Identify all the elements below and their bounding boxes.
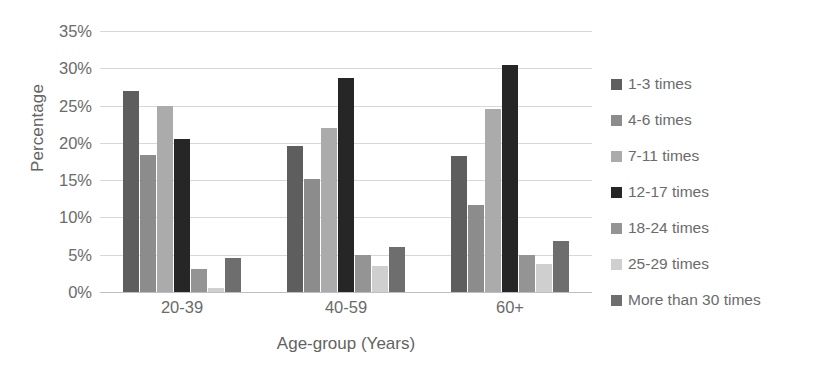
- legend-swatch-icon: [611, 115, 622, 126]
- legend-label: 12-17 times: [628, 184, 709, 200]
- bar: [304, 179, 320, 292]
- legend-label: More than 30 times: [628, 292, 761, 308]
- bar-chart: Percentage 35%30%25%20%15%10%5%0% 20-394…: [0, 0, 820, 392]
- bar: [287, 146, 303, 292]
- bar: [225, 258, 241, 292]
- legend-label: 7-11 times: [628, 148, 699, 164]
- legend-swatch-icon: [611, 223, 622, 234]
- bar-group: [100, 31, 264, 292]
- y-axis-tick-labels: 35%30%25%20%15%10%5%0%: [30, 31, 92, 292]
- legend-item: 1-3 times: [611, 66, 816, 102]
- legend-swatch-icon: [611, 151, 622, 162]
- bar-group: [428, 31, 592, 292]
- bar-groups: [100, 31, 592, 292]
- bar: [157, 106, 173, 292]
- bar: [123, 91, 139, 292]
- bar-group: [264, 31, 428, 292]
- bar: [208, 288, 224, 292]
- axis-baseline: [100, 292, 592, 293]
- legend-item: 25-29 times: [611, 246, 816, 282]
- bar: [536, 264, 552, 292]
- bar: [519, 255, 535, 292]
- x-axis-title: Age-group (Years): [100, 334, 592, 354]
- y-axis-tick-label: 0%: [30, 283, 92, 302]
- bar: [140, 155, 156, 292]
- legend-swatch-icon: [611, 187, 622, 198]
- y-axis-tick-label: 25%: [30, 96, 92, 115]
- plot-area: [100, 31, 592, 292]
- legend: 1-3 times4-6 times7-11 times12-17 times1…: [611, 66, 816, 318]
- y-axis-tick-label: 20%: [30, 133, 92, 152]
- legend-item: 18-24 times: [611, 210, 816, 246]
- bar: [468, 205, 484, 292]
- x-axis-tick-label: 60+: [428, 298, 592, 317]
- x-axis-tick-labels: 20-3940-5960+: [100, 298, 592, 317]
- bar: [372, 266, 388, 292]
- bar: [485, 109, 501, 292]
- legend-label: 1-3 times: [628, 76, 692, 92]
- bar: [451, 156, 467, 292]
- legend-item: More than 30 times: [611, 282, 816, 318]
- y-axis-tick-label: 35%: [30, 22, 92, 41]
- x-axis-tick-label: 20-39: [100, 298, 264, 317]
- legend-label: 18-24 times: [628, 220, 709, 236]
- y-axis-tick-label: 15%: [30, 171, 92, 190]
- legend-item: 4-6 times: [611, 102, 816, 138]
- bar: [321, 128, 337, 292]
- y-axis-tick-label: 10%: [30, 208, 92, 227]
- legend-item: 12-17 times: [611, 174, 816, 210]
- bar: [389, 247, 405, 292]
- legend-swatch-icon: [611, 295, 622, 306]
- bar: [553, 241, 569, 292]
- legend-item: 7-11 times: [611, 138, 816, 174]
- bar: [174, 139, 190, 292]
- y-axis-tick-label: 5%: [30, 245, 92, 264]
- bar: [502, 65, 518, 292]
- legend-swatch-icon: [611, 259, 622, 270]
- y-axis-tick-label: 30%: [30, 59, 92, 78]
- legend-label: 25-29 times: [628, 256, 709, 272]
- legend-swatch-icon: [611, 79, 622, 90]
- legend-label: 4-6 times: [628, 112, 692, 128]
- x-axis-tick-label: 40-59: [264, 298, 428, 317]
- bar: [191, 269, 207, 292]
- bar: [355, 255, 371, 292]
- bar: [338, 78, 354, 292]
